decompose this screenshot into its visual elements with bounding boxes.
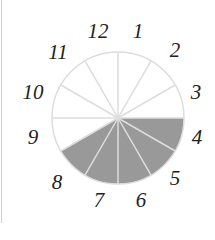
numeral-5: 5	[170, 168, 181, 189]
spoke-line	[85, 61, 118, 118]
numeral-9: 9	[28, 127, 39, 148]
numeral-2: 2	[170, 40, 181, 61]
numeral-10: 10	[23, 82, 44, 103]
numeral-11: 11	[48, 42, 67, 63]
spoke-line	[61, 85, 118, 118]
numeral-6: 6	[136, 190, 147, 211]
numeral-3: 3	[191, 82, 202, 103]
shaded-wedge	[61, 118, 184, 184]
numeral-7: 7	[94, 190, 105, 211]
numeral-4: 4	[192, 127, 203, 148]
numeral-1: 1	[133, 21, 144, 42]
spoke-line	[118, 85, 175, 118]
numeral-12: 12	[88, 21, 109, 42]
spoke-line	[118, 61, 151, 118]
numeral-8: 8	[52, 172, 63, 193]
